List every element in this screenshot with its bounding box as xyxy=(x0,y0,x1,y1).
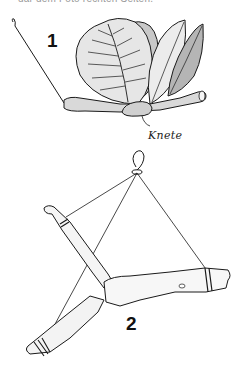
forked-branch-illustration xyxy=(0,148,245,372)
figure-number-1: 1 xyxy=(47,30,58,52)
figure-number-2: 2 xyxy=(126,313,137,335)
top-caption-text: dar dem Foto rechten Seiten. xyxy=(18,0,153,4)
leaf-twig-illustration xyxy=(0,10,245,150)
figure-1-leaf-butterfly xyxy=(0,10,245,150)
figure-2-branch-mobile xyxy=(0,148,245,372)
clay-label: Knete xyxy=(148,129,182,142)
